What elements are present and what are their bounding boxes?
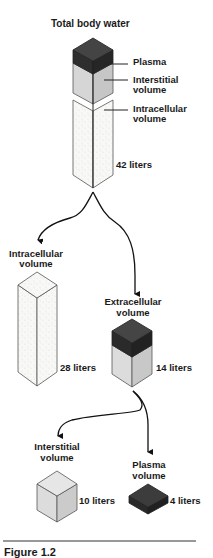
plasma-block [129, 484, 168, 514]
interstitial-block [37, 471, 77, 522]
arrow-to-intracellular [38, 192, 93, 240]
label-plasma: Plasma [133, 56, 166, 67]
plasma-amount: 4 liters [170, 495, 201, 506]
extracellular-block [112, 319, 152, 387]
diagram-title: Total body water [51, 18, 130, 29]
plasma-label-line2: volume [124, 470, 174, 481]
intracellular-block [18, 272, 57, 386]
label-interstitial-line2: volume [133, 84, 166, 95]
interstitial-label-line2: volume [27, 452, 87, 463]
intracellular-amount: 28 liters [60, 362, 96, 373]
plasma-label-line1: Plasma [124, 459, 174, 470]
extracellular-amount: 14 liters [156, 362, 192, 373]
figure-caption: Figure 1.2 [4, 546, 56, 558]
arrow-to-interstitial [58, 391, 142, 436]
arrow-to-extracellular [93, 192, 135, 294]
label-intracellular-line2: volume [133, 113, 166, 124]
interstitial-amount: 10 liters [79, 495, 115, 506]
extracellular-label-line2: volume [100, 307, 166, 318]
interstitial-label-line1: Interstitial [27, 441, 87, 452]
intracellular-label-line2: volume [4, 258, 68, 269]
total-amount: 42 liters [116, 159, 152, 170]
extracellular-label-line1: Extracellular [100, 296, 166, 307]
